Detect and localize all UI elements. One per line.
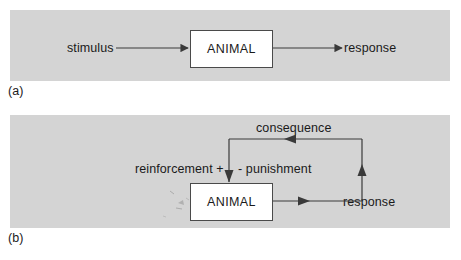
stimulus-label: stimulus — [67, 42, 114, 55]
animal-box-label-a: ANIMAL — [207, 42, 256, 56]
consequence-label: consequence — [256, 122, 331, 135]
punishment-label: - punishment — [238, 163, 311, 176]
animal-box-panel-b: ANIMAL — [190, 183, 273, 221]
panel-b-caption: (b) — [8, 232, 24, 245]
animal-box-panel-a: ANIMAL — [190, 30, 273, 68]
reinforcement-label: reinforcement + — [135, 163, 224, 176]
animal-box-label-b: ANIMAL — [207, 195, 256, 209]
figure-container: stimulus response ANIMAL (a) consequence… — [0, 0, 461, 260]
panel-a-caption: (a) — [8, 85, 24, 98]
response-label-panel-b: response — [343, 196, 395, 209]
response-label-panel-a: response — [344, 42, 396, 55]
